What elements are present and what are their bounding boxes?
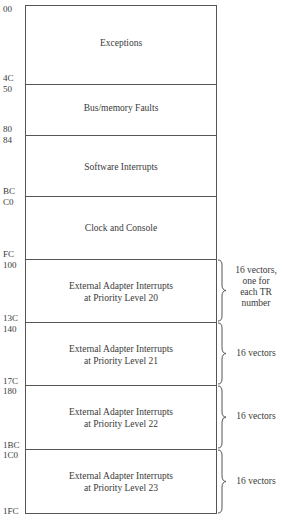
note-line: number bbox=[228, 298, 284, 309]
region-label-clock-console: Clock and Console bbox=[25, 222, 217, 234]
region-label-ext-adapter-20: External Adapter Interrupts at Priority … bbox=[25, 280, 217, 304]
region-label-ext-adapter-21: External Adapter Interrupts at Priority … bbox=[25, 343, 217, 367]
note-ext-adapter-20: 16 vectors, one for each TR number bbox=[228, 265, 284, 309]
note-line: 16 vectors, bbox=[228, 265, 284, 276]
region-label-ext-adapter-23: External Adapter Interrupts at Priority … bbox=[25, 470, 217, 494]
separator bbox=[25, 385, 217, 386]
separator bbox=[25, 322, 217, 323]
address-start: 100 bbox=[3, 260, 17, 270]
separator bbox=[25, 196, 217, 197]
note-ext-adapter-21: 16 vectors bbox=[228, 348, 284, 359]
address-start: 50 bbox=[3, 84, 12, 94]
label-line: at Priority Level 23 bbox=[25, 482, 217, 494]
address-start: 180 bbox=[3, 386, 17, 396]
address-end: 17C bbox=[3, 376, 18, 386]
address-start: C0 bbox=[3, 197, 14, 207]
label-line: at Priority Level 21 bbox=[25, 355, 217, 367]
label-line: at Priority Level 20 bbox=[25, 292, 217, 304]
note-line: each TR bbox=[228, 287, 284, 298]
region-label-software-interrupts: Software Interrupts bbox=[25, 161, 217, 173]
address-start: 00 bbox=[3, 4, 12, 14]
label-line: External Adapter Interrupts bbox=[25, 343, 217, 355]
separator bbox=[25, 135, 217, 136]
region-label-ext-adapter-22: External Adapter Interrupts at Priority … bbox=[25, 406, 217, 430]
label-line: at Priority Level 22 bbox=[25, 418, 217, 430]
address-end: 4C bbox=[3, 73, 14, 83]
address-start: 84 bbox=[3, 135, 12, 145]
address-end: FC bbox=[3, 249, 14, 259]
note-ext-adapter-23: 16 vectors bbox=[228, 476, 284, 487]
address-start: 140 bbox=[3, 324, 17, 334]
separator bbox=[25, 84, 217, 85]
note-line: one for bbox=[228, 276, 284, 287]
address-end: BC bbox=[3, 186, 15, 196]
separator bbox=[25, 449, 217, 450]
address-end: 1BC bbox=[3, 440, 20, 450]
region-label-exceptions: Exceptions bbox=[25, 37, 217, 49]
address-end: 80 bbox=[3, 124, 12, 134]
separator bbox=[25, 259, 217, 260]
region-label-bus-memory-faults: Bus/memory Faults bbox=[25, 102, 217, 114]
note-ext-adapter-22: 16 vectors bbox=[228, 411, 284, 422]
address-start: 1C0 bbox=[3, 450, 18, 460]
address-end: 13C bbox=[3, 313, 18, 323]
label-line: External Adapter Interrupts bbox=[25, 280, 217, 292]
address-end: 1FC bbox=[3, 506, 19, 516]
label-line: External Adapter Interrupts bbox=[25, 406, 217, 418]
label-line: External Adapter Interrupts bbox=[25, 470, 217, 482]
